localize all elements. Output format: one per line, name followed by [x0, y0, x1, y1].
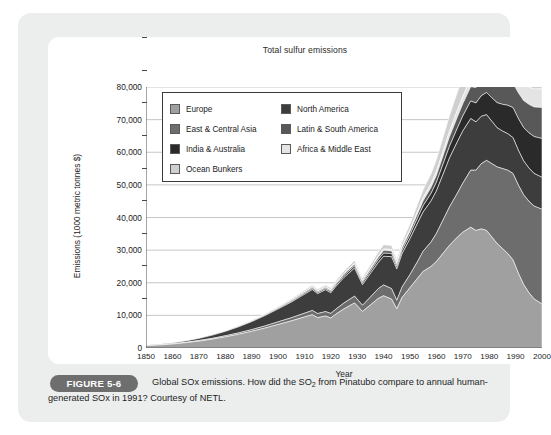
y-tick-label: 30,000 — [96, 245, 142, 255]
x-tick-label: 1900 — [269, 352, 287, 361]
y-tick-label: 60,000 — [96, 147, 142, 157]
legend-item: East & Central Asia — [170, 119, 288, 139]
caption-subscript: 2 — [312, 381, 316, 388]
chart-title: Total sulfur emissions — [48, 45, 518, 55]
y-tick-label: 80,000 — [96, 82, 142, 92]
y-tick-mark — [142, 37, 147, 38]
x-tick-label: 1940 — [375, 352, 393, 361]
x-tick-label: 1930 — [348, 352, 366, 361]
y-tick-label: 20,000 — [96, 278, 142, 288]
legend-item: Europe — [170, 99, 288, 119]
legend-label: Europe — [186, 105, 212, 114]
y-axis-title: Emissions (1000 metric tonnes $) — [72, 116, 82, 316]
x-tick-label: 1970 — [454, 352, 472, 361]
y-tick-mark — [142, 102, 147, 103]
legend-label: India & Australia — [186, 145, 245, 154]
chart-legend: EuropeEast & Central AsiaIndia & Austral… — [162, 92, 402, 182]
legend-item: Ocean Bunkers — [170, 159, 288, 179]
x-tick-label: 1870 — [190, 352, 208, 361]
y-tick-label: 0 — [96, 343, 142, 353]
x-tick-label: 1990 — [507, 352, 525, 361]
legend-swatch-icon — [170, 144, 180, 154]
figure-panel: Total sulfur emissions Emissions (1000 m… — [18, 13, 510, 422]
legend-label: North America — [297, 105, 349, 114]
x-tick-label: 1910 — [295, 352, 313, 361]
x-tick-label: 1850 — [137, 352, 155, 361]
legend-column-right: North AmericaLatin & South AmericaAfrica… — [281, 99, 399, 159]
legend-item: India & Australia — [170, 139, 288, 159]
legend-label: Ocean Bunkers — [186, 165, 242, 174]
x-tick-label: 1880 — [216, 352, 234, 361]
legend-label: Africa & Middle East — [297, 145, 371, 154]
y-tick-label: 70,000 — [96, 115, 142, 125]
x-tick-label: 2000 — [533, 352, 551, 361]
y-tick-mark — [142, 70, 147, 71]
legend-swatch-icon — [281, 124, 291, 134]
y-tick-label: 10,000 — [96, 310, 142, 320]
figure-caption-block: Global SOx emissions. How did the SO2 fr… — [48, 373, 518, 423]
y-tick-mark — [142, 200, 147, 201]
y-tick-mark — [142, 135, 147, 136]
y-tick-mark — [142, 265, 147, 266]
x-tick-label: 1860 — [163, 352, 181, 361]
legend-label: East & Central Asia — [186, 125, 257, 134]
x-tick-label: 1920 — [322, 352, 340, 361]
x-tick-label: 1890 — [243, 352, 261, 361]
legend-column-left: EuropeEast & Central AsiaIndia & Austral… — [170, 99, 288, 179]
chart-card: Total sulfur emissions Emissions (1000 m… — [48, 37, 518, 364]
y-tick-mark — [142, 233, 147, 234]
legend-item: North America — [281, 99, 399, 119]
figure-number-badge: FIGURE 5-6 — [50, 375, 138, 392]
legend-swatch-icon — [170, 164, 180, 174]
legend-item: Africa & Middle East — [281, 139, 399, 159]
y-tick-label: 50,000 — [96, 180, 142, 190]
x-tick-label: 1980 — [480, 352, 498, 361]
caption-sentence-1: Global SOx emissions. How did the SO — [152, 377, 312, 387]
y-axis-tick-labels: 010,00020,00030,00040,00050,00060,00070,… — [92, 87, 142, 348]
x-tick-label: 1960 — [427, 352, 445, 361]
y-tick-label: 40,000 — [96, 213, 142, 223]
legend-item: Latin & South America — [281, 119, 399, 139]
legend-label: Latin & South America — [297, 125, 378, 134]
x-tick-label: 1950 — [401, 352, 419, 361]
y-tick-mark — [142, 168, 147, 169]
legend-swatch-icon — [281, 104, 291, 114]
x-axis-tick-labels: 1850186018701880189019001910192019301940… — [146, 352, 542, 366]
y-tick-mark — [142, 298, 147, 299]
legend-swatch-icon — [281, 144, 291, 154]
legend-swatch-icon — [170, 124, 180, 134]
legend-swatch-icon — [170, 104, 180, 114]
